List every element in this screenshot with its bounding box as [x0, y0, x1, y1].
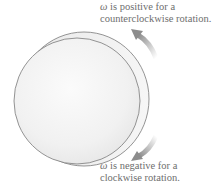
- disk-face: [14, 38, 140, 164]
- negative-omega-caption: ω is negative for a clockwise rotation.: [100, 160, 180, 184]
- positive-omega-caption: ω is positive for a counterclockwise rot…: [100, 1, 211, 25]
- counterclockwise-arrow-icon: [131, 29, 156, 58]
